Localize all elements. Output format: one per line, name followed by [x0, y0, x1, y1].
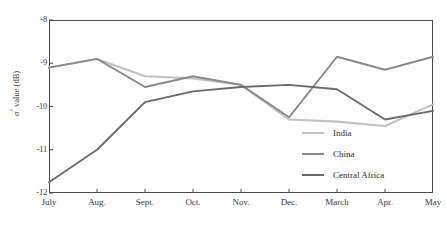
y-tick-label: -9 [31, 57, 47, 67]
x-tick-label: Oct. [168, 197, 218, 207]
legend-label: China [333, 149, 355, 159]
figure-root: σ° value (dB) -8-9-10-11-12 JulyAug.Sept… [0, 0, 447, 227]
x-tick-label: May [408, 197, 447, 207]
y-tick-label: -12 [31, 187, 47, 197]
y-tick-label: -8 [31, 14, 47, 24]
series-line-india [49, 59, 433, 126]
chart-legend: IndiaChinaCentral Africa [302, 128, 384, 180]
x-tick-label: Dec. [264, 197, 314, 207]
x-tick-label: March [312, 197, 362, 207]
x-tick-label: Nov. [216, 197, 266, 207]
x-tick-label: Aug. [72, 197, 122, 207]
chart-canvas [0, 0, 447, 227]
legend-item-central-africa[interactable]: Central Africa [302, 170, 384, 180]
legend-item-china[interactable]: China [302, 149, 384, 159]
legend-swatch-icon [302, 174, 324, 176]
legend-swatch-icon [302, 132, 324, 134]
x-tick-label: Sept. [120, 197, 170, 207]
x-tick-label: July [24, 197, 74, 207]
legend-label: India [333, 128, 352, 138]
x-tick-label: Apr. [360, 197, 410, 207]
legend-item-india[interactable]: India [302, 128, 384, 138]
legend-label: Central Africa [333, 170, 384, 180]
y-tick-label: -10 [31, 101, 47, 111]
legend-swatch-icon [302, 153, 324, 155]
y-tick-label: -11 [31, 144, 47, 154]
